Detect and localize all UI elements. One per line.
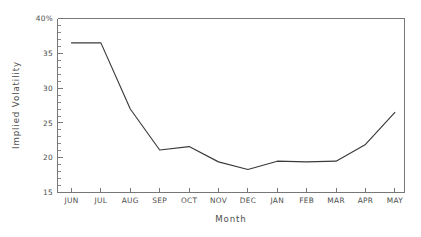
x-tick-label: DEC: [240, 196, 256, 205]
x-tick-label: JUL: [94, 196, 108, 205]
chart-figure: 40% 35 30 25 20 15 JUN JUL AUG: [0, 0, 421, 237]
x-tick-label: JUN: [63, 196, 78, 205]
x-tick-label: JAN: [270, 196, 285, 205]
implied-volatility-line: [72, 43, 395, 170]
y-axis-title: Implied Volatility: [11, 61, 21, 149]
y-tick-label: 35: [43, 49, 53, 58]
y-axis-tick-labels: 40% 35 30 25 20 15: [36, 14, 53, 197]
plot-frame: [58, 19, 405, 193]
x-axis-ticks: [72, 188, 395, 193]
x-tick-label: AUG: [122, 196, 139, 205]
x-tick-label: NOV: [210, 196, 227, 205]
x-axis-tick-labels: JUN JUL AUG SEP OCT NOV DEC JAN FEB MAR …: [63, 196, 403, 205]
y-axis-ticks: [58, 19, 63, 193]
x-tick-label: APR: [358, 196, 374, 205]
x-tick-label: FEB: [299, 196, 314, 205]
x-tick-label: OCT: [181, 196, 198, 205]
y-tick-label: 25: [43, 119, 53, 128]
y-tick-label: 20: [43, 153, 53, 162]
x-tick-label: MAR: [327, 196, 344, 205]
y-tick-label: 30: [43, 84, 53, 93]
x-tick-label: MAY: [387, 196, 403, 205]
line-chart: 40% 35 30 25 20 15 JUN JUL AUG: [0, 0, 421, 237]
x-tick-label: SEP: [152, 196, 167, 205]
data-series-group: [72, 43, 395, 170]
x-axis-title: Month: [215, 214, 246, 224]
y-tick-label: 40%: [36, 14, 53, 23]
y-tick-label: 15: [43, 188, 53, 197]
